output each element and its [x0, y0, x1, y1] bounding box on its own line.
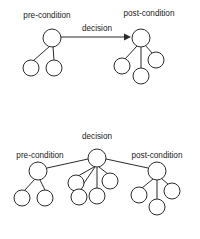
edge-bottom-decision-to-pre-root: [47, 159, 88, 168]
node-top-post-child-3: [133, 68, 149, 84]
decision-arrow: [61, 34, 131, 41]
label-bottom-decision: decision: [82, 132, 112, 141]
node-bottom-decision-root: [88, 149, 106, 167]
node-top-pre-root: [43, 29, 61, 47]
decision-arrow-head-icon: [124, 34, 131, 41]
label-bottom-pre-condition: pre-condition: [16, 151, 64, 160]
edge-bottom-pre-root-to-child2: [40, 180, 45, 190]
node-bottom-decision-child-1: [68, 175, 84, 191]
label-bottom-post-condition: post-condition: [132, 151, 183, 160]
diagram-root: pre-condition decision post-condition: [0, 0, 200, 239]
bottom-post-condition-tree: [131, 162, 180, 215]
edge-bottom-post-root-to-child1: [142, 179, 153, 188]
node-bottom-pre-child-1: [14, 190, 30, 206]
label-top-pre-condition: pre-condition: [23, 11, 71, 20]
bottom-panel: decision pre-condition post-condition: [14, 132, 183, 215]
node-top-post-child-2: [148, 52, 164, 68]
node-top-post-root: [132, 29, 150, 47]
label-top-decision: decision: [82, 24, 112, 33]
node-bottom-decision-child-2: [102, 173, 118, 189]
edge-bottom-pre-root-to-child1: [24, 179, 35, 191]
node-bottom-decision-child-4: [89, 188, 105, 204]
top-pre-condition-tree: [23, 29, 62, 76]
node-bottom-post-child-2: [164, 183, 180, 199]
edge-top-pre-root-to-child2: [53, 47, 54, 60]
diagram-canvas: pre-condition decision post-condition: [0, 0, 200, 239]
top-panel: pre-condition decision post-condition: [23, 9, 175, 84]
edge-top-post-root-to-child1: [125, 46, 137, 59]
node-bottom-decision-child-3: [71, 189, 87, 205]
edge-top-pre-root-to-child1: [33, 46, 50, 61]
node-top-pre-child-2: [46, 60, 62, 76]
node-bottom-pre-root: [29, 162, 47, 180]
edge-bottom-decision-to-post-root: [106, 159, 148, 168]
node-bottom-pre-child-2: [37, 190, 53, 206]
bottom-pre-condition-tree: [14, 162, 53, 206]
node-bottom-post-child-1: [131, 187, 147, 203]
edge-bottom-decision-to-child2: [99, 167, 108, 174]
node-top-pre-child-1: [23, 60, 39, 76]
label-top-post-condition: post-condition: [124, 9, 175, 18]
node-bottom-post-child-3: [149, 199, 165, 215]
node-top-post-child-1: [114, 58, 130, 74]
node-bottom-post-root: [148, 162, 166, 180]
